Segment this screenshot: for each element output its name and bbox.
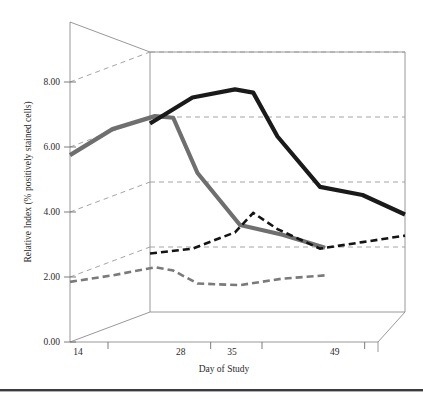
y-tick-label: 0.00 bbox=[43, 337, 60, 347]
x-tick-label: 35 bbox=[227, 347, 237, 357]
y-tick-label: 8.00 bbox=[43, 77, 60, 87]
bottom-divider-rule bbox=[0, 389, 423, 391]
plot-frame bbox=[70, 22, 405, 352]
y-axis-ticks: 0.002.004.006.008.00 bbox=[43, 77, 76, 347]
y-tick-label: 6.00 bbox=[43, 142, 60, 152]
x-tick-label: 28 bbox=[176, 347, 186, 357]
y-axis-title: Relative Index (% positively stained cel… bbox=[23, 101, 34, 262]
floor-left-depth-edge bbox=[70, 312, 150, 342]
y-tick-label: 4.00 bbox=[43, 207, 60, 217]
floor-front-edge bbox=[70, 312, 405, 342]
gridline-depth-segment bbox=[70, 52, 150, 82]
gridline-depth-segment bbox=[70, 247, 150, 277]
data-series-group bbox=[70, 89, 405, 285]
x-tick-label: 49 bbox=[330, 347, 340, 357]
y-tick-label: 2.00 bbox=[43, 272, 60, 282]
gridline-depth-segment bbox=[70, 182, 150, 212]
x-axis-ticks: 14283549 bbox=[73, 342, 364, 357]
chart-canvas: 0.002.004.006.008.00 14283549 Day of Stu… bbox=[0, 0, 423, 399]
frame-top-depth-edge bbox=[70, 22, 150, 52]
chart-figure: 0.002.004.006.008.00 14283549 Day of Stu… bbox=[0, 0, 423, 399]
x-axis-title: Day of Study bbox=[199, 364, 250, 374]
x-tick-label: 14 bbox=[73, 347, 83, 357]
series-line-dashed-gray-front bbox=[70, 267, 325, 285]
